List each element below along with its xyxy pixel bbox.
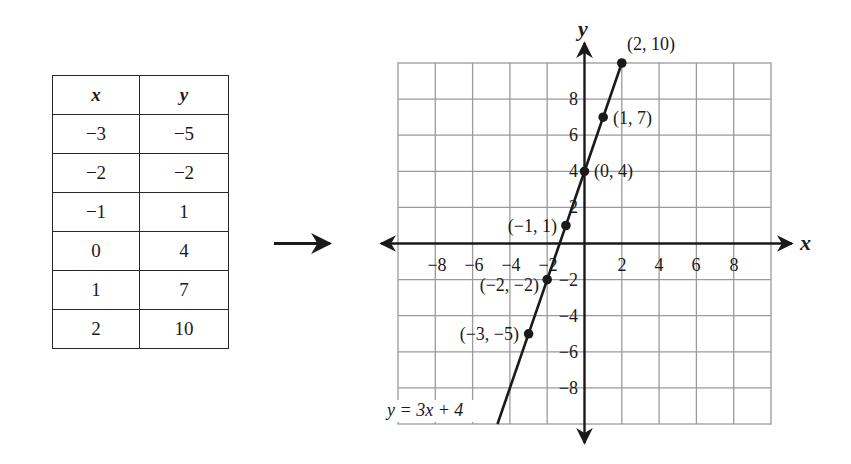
y-tick: −6 xyxy=(559,342,578,362)
equation-label: y = 3x + 4 xyxy=(385,400,463,420)
x-tick: 4 xyxy=(655,255,664,275)
x-tick: −8 xyxy=(427,255,446,275)
point-label: (2, 10) xyxy=(627,34,675,55)
coordinate-graph: x y −8 −6 −4 −2 2 4 6 8 8 6 4 2 −2 −4 −6… xyxy=(0,0,851,464)
x-tick-labels: −8 −6 −4 −2 2 4 6 8 xyxy=(427,255,738,275)
x-tick: 8 xyxy=(730,255,739,275)
x-tick: −4 xyxy=(501,255,520,275)
point-label: (−1, 1) xyxy=(508,216,557,237)
point-0-4 xyxy=(580,167,590,177)
point-label: (1, 7) xyxy=(613,108,652,129)
y-tick: −4 xyxy=(559,306,578,326)
point-label: (−2, −2) xyxy=(480,275,539,296)
y-tick: −2 xyxy=(559,270,578,290)
point-label: (0, 4) xyxy=(594,161,633,182)
x-tick: 6 xyxy=(692,255,701,275)
y-tick: 6 xyxy=(569,125,578,145)
x-tick: 2 xyxy=(618,255,627,275)
point-neg2-neg2 xyxy=(542,275,552,285)
y-tick: 8 xyxy=(569,89,578,109)
x-axis-label: x xyxy=(799,230,811,255)
y-axis-label: y xyxy=(575,16,588,41)
point-2-10 xyxy=(617,58,627,68)
x-tick: −6 xyxy=(464,255,483,275)
y-tick: −8 xyxy=(559,378,578,398)
y-tick: 4 xyxy=(569,161,578,181)
point-1-7 xyxy=(598,112,608,122)
point-neg3-neg5 xyxy=(524,329,534,339)
point-labels: (2, 10) (1, 7) (0, 4) (−1, 1) (−2, −2) (… xyxy=(460,34,675,345)
point-label: (−3, −5) xyxy=(460,324,519,345)
point-neg1-1 xyxy=(561,221,571,231)
